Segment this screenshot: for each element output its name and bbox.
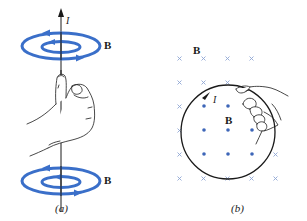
current-arrow-icon — [202, 92, 210, 100]
cross-icon — [178, 81, 182, 85]
dot-icon — [202, 152, 206, 156]
cross-icon — [250, 177, 254, 181]
field-label-outside: B — [193, 44, 201, 56]
field-label-top: B — [104, 39, 112, 51]
field-loops-top — [22, 30, 100, 62]
current-label-b: I — [212, 94, 217, 105]
dot-icon — [226, 152, 230, 156]
caption-a: (a) — [55, 202, 68, 215]
arrow-icon — [54, 174, 61, 180]
cross-icon — [178, 105, 182, 109]
cross-icon — [226, 81, 230, 85]
cross-icon — [274, 153, 278, 157]
arrow-icon — [74, 190, 82, 197]
cross-icon — [202, 57, 206, 61]
field-loops-bottom — [22, 165, 100, 197]
panel-b: B I — [178, 44, 289, 215]
field-label-bottom: B — [104, 174, 112, 186]
cross-icon — [274, 177, 278, 181]
cross-icon — [178, 153, 182, 157]
panel-a: I B — [22, 8, 112, 215]
cross-icon — [178, 177, 182, 181]
cross-icon — [202, 177, 206, 181]
cross-icon — [178, 57, 182, 61]
current-label-a: I — [65, 15, 70, 26]
right-hand-icon — [236, 86, 288, 144]
field-out-of-page-dots — [202, 104, 254, 156]
dot-icon — [226, 104, 230, 108]
dot-icon — [250, 128, 254, 132]
dot-icon — [250, 152, 254, 156]
current-arrow-icon — [58, 8, 64, 17]
cross-icon — [202, 81, 206, 85]
dot-icon — [202, 128, 206, 132]
cross-icon — [250, 57, 254, 61]
dot-icon — [226, 128, 230, 132]
field-label-inside: B — [225, 114, 233, 126]
cross-icon — [226, 57, 230, 61]
current-loop — [181, 85, 275, 179]
dot-icon — [202, 104, 206, 108]
caption-b: (b) — [231, 202, 244, 215]
diagram-canvas: I B — [0, 0, 307, 221]
